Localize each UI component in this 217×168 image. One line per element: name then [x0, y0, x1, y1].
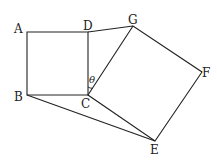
square-cefg	[88, 26, 202, 141]
label-g: G	[128, 13, 138, 27]
segment-be	[27, 95, 155, 141]
label-a: A	[13, 22, 23, 36]
label-theta: θ	[89, 74, 95, 85]
square-abcd	[27, 32, 88, 95]
segment-dg	[88, 26, 133, 32]
label-f: F	[202, 66, 210, 80]
angle-theta-arc	[88, 87, 92, 88]
label-e: E	[150, 143, 159, 157]
label-d: D	[83, 19, 93, 33]
label-b: B	[14, 90, 23, 104]
geometry-diagram: A B C D G F E θ	[0, 0, 217, 168]
label-c: C	[81, 97, 90, 111]
